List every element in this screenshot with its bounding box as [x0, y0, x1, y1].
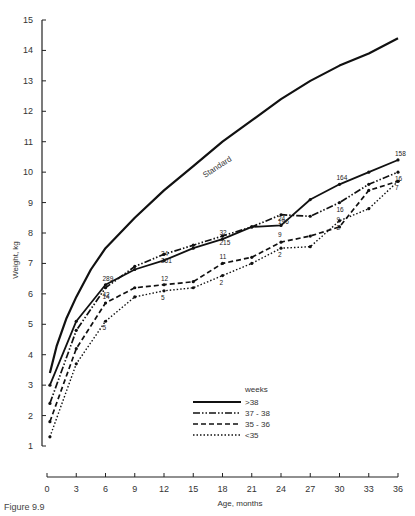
legend-item: >38 [193, 398, 259, 407]
data-label: 11 [220, 253, 227, 260]
standard-annotation: Standard [201, 154, 233, 179]
data-label: 2 [337, 224, 341, 231]
data-label: 9 [278, 231, 282, 238]
legend-item: <35 [193, 431, 259, 440]
x-tick-label: 24 [276, 484, 286, 494]
data-label: 5 [103, 324, 107, 331]
data-label: 7 [395, 184, 399, 191]
legend-item: 37 - 38 [193, 409, 270, 418]
data-label: 2 [220, 279, 224, 286]
y-tick-label: 14 [23, 45, 33, 55]
y-tick-label: 10 [23, 167, 33, 177]
series--38: 289343224164158 [48, 150, 406, 387]
y-tick-label: 12 [23, 106, 33, 116]
y-tick-label: 6 [28, 289, 33, 299]
legend-title: weeks [244, 385, 268, 394]
y-tick-label: 3 [28, 380, 33, 390]
x-tick-label: 3 [74, 484, 79, 494]
x-tick-label: 21 [247, 484, 257, 494]
data-label: 289 [103, 275, 114, 282]
data-label: 215 [220, 239, 231, 246]
data-label: 14 [103, 293, 111, 300]
y-tick-label: 13 [23, 76, 33, 86]
x-tick-label: 27 [305, 484, 315, 494]
y-tick-label: 11 [24, 137, 33, 147]
legend-label: 37 - 38 [245, 409, 270, 418]
x-tick-label: 9 [132, 484, 137, 494]
legend-label: 35 - 36 [245, 420, 270, 429]
y-tick-label: 15 [23, 15, 33, 25]
y-tick-label: 8 [28, 228, 33, 238]
x-tick-label: 36 [393, 484, 403, 494]
data-label: 5 [161, 294, 165, 301]
x-tick-label: 0 [44, 484, 49, 494]
figure-caption: Figure 9.9 [4, 502, 45, 512]
data-label: 2 [278, 251, 282, 258]
series-37-38: 422612151961616 [48, 171, 402, 405]
y-tick-label: 9 [28, 198, 33, 208]
x-tick-label: 6 [103, 484, 108, 494]
x-tick-label: 12 [159, 484, 169, 494]
legend-label: >38 [245, 398, 259, 407]
legend-label: <35 [245, 431, 259, 440]
x-tick-label: 15 [188, 484, 198, 494]
y-tick-label: 1 [28, 441, 33, 451]
x-tick-label: 30 [334, 484, 344, 494]
y-axis: 123456789101112131415Weight, kg [11, 15, 46, 451]
data-label: 158 [395, 150, 406, 157]
data-label: 12 [161, 275, 169, 282]
legend: weeks>3837 - 3835 - 36<35 [193, 385, 270, 440]
data-label: 196 [278, 218, 289, 225]
y-tick-label: 2 [28, 411, 33, 421]
series-35-36: 14121199 [48, 180, 399, 424]
data-label: 261 [161, 257, 172, 264]
series-standard [50, 38, 398, 373]
x-tick-label: 33 [364, 484, 374, 494]
y-tick-label: 4 [28, 350, 33, 360]
legend-item: 35 - 36 [193, 420, 270, 429]
x-axis-label: Age, months [218, 499, 263, 508]
y-axis-label: Weight, kg [11, 241, 20, 279]
weight-age-chart: 123456789101112131415Weight, kg036912151… [0, 0, 415, 516]
y-tick-label: 7 [28, 258, 33, 268]
x-tick-label: 18 [217, 484, 227, 494]
data-label: 16 [337, 206, 345, 213]
data-label: 164 [337, 174, 348, 181]
y-tick-label: 5 [28, 319, 33, 329]
x-axis: 0369121518212427303336Age, months [44, 473, 403, 508]
